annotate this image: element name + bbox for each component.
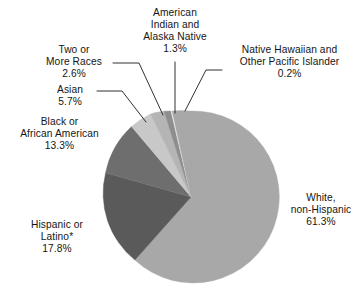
label-line: Black or bbox=[8, 116, 111, 128]
slice-label-hispanic-or-latino: Hispanic or Latino* 17.8% bbox=[16, 219, 98, 255]
slice-label-american-indian-and-alaska-native: American Indian and Alaska Native 1.3% bbox=[129, 7, 221, 55]
label-line: Asian bbox=[45, 84, 95, 96]
label-line: Hispanic or bbox=[16, 219, 98, 231]
label-value: 61.3% bbox=[284, 216, 358, 228]
label-line: Native Hawaiian and bbox=[224, 44, 355, 56]
label-line: Latino* bbox=[16, 231, 98, 243]
label-line: non-Hispanic bbox=[284, 204, 358, 216]
label-line: Two or bbox=[36, 44, 112, 56]
label-line: American bbox=[129, 7, 221, 19]
leader-line-two-or-more-races bbox=[113, 63, 163, 115]
slice-label-two-or-more-races: Two or More Races 2.6% bbox=[36, 44, 112, 80]
label-value: 13.3% bbox=[8, 140, 111, 152]
label-value: 17.8% bbox=[16, 243, 98, 255]
leader-line-native-hawaiian bbox=[185, 70, 222, 111]
pie-chart-figure: American Indian and Alaska Native 1.3% N… bbox=[0, 0, 359, 299]
label-line: White, bbox=[284, 192, 358, 204]
label-line: More Races bbox=[36, 56, 112, 68]
slice-label-native-hawaiian-and-other-pacific-islander: Native Hawaiian and Other Pacific Island… bbox=[224, 44, 355, 80]
label-line: African American bbox=[8, 128, 111, 140]
slice-label-white-non-hispanic: White, non-Hispanic 61.3% bbox=[284, 192, 358, 228]
label-line: Indian and bbox=[129, 19, 221, 31]
label-value: 2.6% bbox=[36, 68, 112, 80]
label-value: 0.2% bbox=[224, 68, 355, 80]
label-value: 1.3% bbox=[129, 43, 221, 55]
label-line: Alaska Native bbox=[129, 31, 221, 43]
label-value: 5.7% bbox=[45, 96, 95, 108]
label-line: Other Pacific Islander bbox=[224, 56, 355, 68]
slice-label-black-or-african-american: Black or African American 13.3% bbox=[8, 116, 111, 152]
slice-label-asian: Asian 5.7% bbox=[45, 84, 95, 108]
